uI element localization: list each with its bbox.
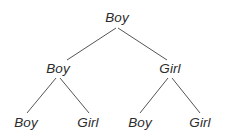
edge-root-to-right-child	[118, 28, 167, 60]
edge-right-child-to-right-leaf	[172, 78, 200, 113]
binary-tree-diagram: Boy Boy Girl Boy Girl Boy Girl	[0, 0, 229, 138]
tree-node-level2-right: Girl	[159, 62, 180, 76]
tree-node-leaf-right-left: Boy	[128, 116, 152, 130]
tree-node-leaf-right-right: Girl	[189, 116, 210, 130]
edge-right-child-to-left-leaf	[140, 78, 168, 113]
tree-node-leaf-left-left: Boy	[14, 116, 38, 130]
edge-left-child-to-left-leaf	[27, 78, 56, 113]
edge-left-child-to-right-leaf	[60, 78, 89, 113]
tree-node-leaf-left-right: Girl	[77, 116, 98, 130]
tree-node-root: Boy	[105, 11, 129, 25]
edge-root-to-left-child	[67, 28, 116, 60]
tree-node-level2-left: Boy	[46, 62, 70, 76]
